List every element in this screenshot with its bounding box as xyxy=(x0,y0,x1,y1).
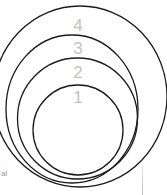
cropped-text-fragment: al xyxy=(1,169,7,178)
ring-2-label: 2 xyxy=(68,64,88,81)
ring-3-label: 3 xyxy=(68,40,88,57)
page-edge-line xyxy=(142,166,143,195)
ring-1-label: 1 xyxy=(68,89,88,106)
ring-4-label: 4 xyxy=(68,17,88,34)
nested-circles-diagram: 4 3 2 1 al xyxy=(0,0,167,195)
